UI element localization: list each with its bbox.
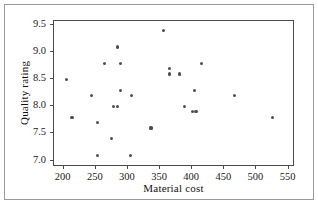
data-point bbox=[168, 67, 171, 70]
y-tick-label: 9.5 bbox=[0, 19, 46, 30]
data-point bbox=[271, 116, 274, 119]
x-tick-mark bbox=[95, 166, 96, 169]
x-tick-label: 400 bbox=[183, 172, 199, 183]
data-point bbox=[191, 110, 194, 113]
data-point bbox=[183, 105, 186, 108]
y-tick-label: 9.0 bbox=[0, 46, 46, 57]
data-point bbox=[96, 121, 99, 124]
data-point bbox=[130, 94, 133, 97]
data-point bbox=[110, 137, 113, 140]
y-tick-label: 7.0 bbox=[0, 155, 46, 166]
data-point bbox=[168, 72, 171, 75]
data-point bbox=[193, 89, 196, 92]
data-point bbox=[200, 62, 203, 65]
x-tick-mark bbox=[191, 166, 192, 169]
data-point bbox=[149, 126, 152, 129]
data-point bbox=[70, 116, 73, 119]
x-tick-mark bbox=[127, 166, 128, 169]
data-point bbox=[178, 72, 181, 75]
scatter-plot-figure: 7.07.58.08.59.09.5 200250300350400450500… bbox=[0, 0, 318, 212]
plot-area-frame bbox=[53, 20, 294, 166]
x-tick-label: 550 bbox=[280, 172, 296, 183]
data-point bbox=[96, 154, 99, 157]
data-point bbox=[233, 94, 236, 97]
x-axis-title: Material cost bbox=[53, 182, 294, 194]
data-point bbox=[112, 105, 115, 108]
x-tick-label: 350 bbox=[151, 172, 167, 183]
data-points-layer bbox=[54, 21, 293, 165]
x-tick-label: 200 bbox=[55, 172, 71, 183]
data-point bbox=[116, 105, 119, 108]
data-point bbox=[119, 62, 122, 65]
y-axis-title: Quality rating bbox=[18, 61, 30, 125]
x-tick-mark bbox=[223, 166, 224, 169]
x-tick-label: 250 bbox=[87, 172, 103, 183]
x-tick-label: 300 bbox=[119, 172, 135, 183]
data-point bbox=[116, 45, 119, 48]
data-point bbox=[90, 94, 93, 97]
x-tick-mark bbox=[63, 166, 64, 169]
data-point bbox=[129, 154, 132, 157]
x-tick-label: 450 bbox=[215, 172, 231, 183]
x-tick-mark bbox=[288, 166, 289, 169]
x-tick-mark bbox=[159, 166, 160, 169]
x-tick-label: 500 bbox=[248, 172, 264, 183]
data-point bbox=[162, 29, 165, 32]
data-point bbox=[194, 110, 197, 113]
x-tick-mark bbox=[255, 166, 256, 169]
plot-wrapper: 7.07.58.08.59.09.5 200250300350400450500… bbox=[0, 0, 318, 212]
data-point bbox=[65, 78, 68, 81]
y-tick-label: 7.5 bbox=[0, 127, 46, 138]
data-point bbox=[103, 62, 106, 65]
data-point bbox=[119, 89, 122, 92]
